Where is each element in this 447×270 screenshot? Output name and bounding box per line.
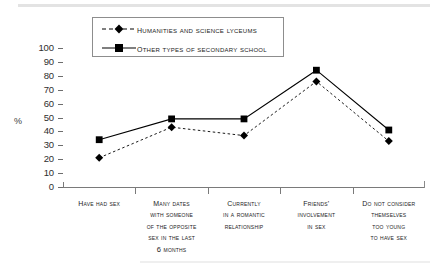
x-category-label-line: Do not consider [349, 197, 429, 209]
legend-label-humanities: Humanities and science lyceums [137, 24, 257, 35]
y-tick-label: 20 [28, 153, 54, 164]
line-chart-figure: % 1009080706050403020100 Humanities and … [0, 0, 447, 270]
x-category-label-line: 6 months [131, 244, 211, 255]
square-marker [96, 136, 103, 143]
x-category-label: Friends'involvementin sex [276, 197, 356, 232]
chart-legend: Humanities and science lyceums Other typ… [92, 17, 284, 57]
x-category-label-line: too young [349, 221, 429, 232]
x-axis-line [63, 187, 425, 188]
y-tick-label: 100 [28, 42, 54, 53]
x-tick-mark [208, 188, 209, 194]
square-marker [241, 116, 248, 123]
x-category-label-line: Have had sex [59, 197, 139, 209]
x-category-label: Have had sex [59, 197, 139, 209]
x-category-label-line: involvement [276, 209, 356, 220]
series-layer [63, 48, 425, 187]
x-category-label-line: in sex [276, 221, 356, 232]
x-category-label-line: with someone [131, 209, 211, 220]
x-category-label: Do not considerthemselvestoo youngto hav… [349, 197, 429, 244]
square-marker-icon [101, 41, 137, 55]
y-tick-label: 70 [28, 84, 54, 95]
x-category-label: Currentlyin a romanticrelationship [204, 197, 284, 232]
square-marker [313, 67, 320, 74]
x-category-label-line: relationship [204, 221, 284, 232]
y-tick-label: 10 [28, 167, 54, 178]
x-category-label-line: Currently [204, 197, 284, 209]
diamond-marker [95, 154, 103, 162]
legend-label-other-schools: Other types of secondary school [137, 43, 267, 54]
y-tick-label: 40 [28, 125, 54, 136]
x-tick-mark [135, 188, 136, 194]
square-marker [385, 127, 392, 134]
y-tick-label: 60 [28, 98, 54, 109]
x-tick-mark [280, 188, 281, 194]
legend-item-humanities: Humanities and science lyceums [93, 19, 283, 39]
x-category-label-line: Friends' [276, 197, 356, 209]
x-category-label-line: Many dates [131, 197, 211, 209]
x-axis-category-labels: Have had sexMany dateswith someoneof the… [63, 197, 425, 263]
plot-area [63, 48, 425, 187]
x-tick-mark [353, 188, 354, 194]
diamond-marker [240, 132, 248, 140]
diamond-marker-icon [101, 22, 137, 36]
x-category-label-line: of the opposite [131, 221, 211, 232]
y-axis-unit-label: % [14, 116, 22, 126]
x-category-label-line: themselves [349, 209, 429, 220]
y-tick-label: 90 [28, 56, 54, 67]
axis-right-cap [424, 181, 425, 188]
x-category-label-line: in a romantic [204, 209, 284, 220]
y-tick-label: 30 [28, 139, 54, 150]
legend-item-other-schools: Other types of secondary school [93, 38, 283, 58]
diamond-marker [168, 123, 176, 131]
square-marker [168, 116, 175, 123]
y-tick-label: 50 [28, 112, 54, 123]
series-line-2 [99, 70, 389, 140]
x-category-label: Many dateswith someoneof the oppositesex… [131, 197, 211, 255]
y-tick-label: 0 [28, 181, 54, 192]
x-category-label-line: to have sex [349, 232, 429, 243]
y-tick-label: 80 [28, 70, 54, 81]
x-category-label-line: sex in the last [131, 232, 211, 243]
